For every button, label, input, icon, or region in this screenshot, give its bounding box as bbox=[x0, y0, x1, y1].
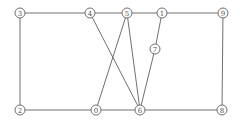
node-4: 4 bbox=[85, 8, 95, 18]
node-3: 3 bbox=[15, 8, 25, 18]
edge-1-7 bbox=[155, 13, 162, 49]
node-1: 1 bbox=[157, 8, 167, 18]
node-label: 1 bbox=[160, 10, 164, 18]
node-label: 3 bbox=[18, 10, 22, 18]
node-8: 8 bbox=[217, 105, 227, 115]
graph-diagram: 3451972068 bbox=[0, 0, 240, 120]
node-label: 2 bbox=[18, 107, 22, 115]
node-label: 0 bbox=[94, 107, 98, 115]
edge-9-8 bbox=[222, 13, 223, 110]
edge-5-0 bbox=[96, 13, 127, 110]
node-5: 5 bbox=[122, 8, 132, 18]
edges-layer bbox=[20, 13, 223, 110]
node-label: 6 bbox=[138, 107, 143, 115]
edge-5-6 bbox=[127, 13, 140, 110]
node-2: 2 bbox=[15, 105, 25, 115]
edge-7-6 bbox=[140, 49, 155, 110]
node-7: 7 bbox=[150, 44, 160, 54]
nodes-layer: 3451972068 bbox=[15, 8, 228, 115]
node-label: 8 bbox=[220, 107, 224, 115]
edge-4-6 bbox=[90, 13, 140, 110]
node-0: 0 bbox=[91, 105, 101, 115]
node-label: 4 bbox=[88, 10, 93, 18]
node-label: 5 bbox=[125, 10, 129, 18]
node-label: 7 bbox=[153, 46, 157, 54]
node-6: 6 bbox=[135, 105, 145, 115]
node-9: 9 bbox=[218, 8, 228, 18]
node-label: 9 bbox=[221, 10, 225, 18]
